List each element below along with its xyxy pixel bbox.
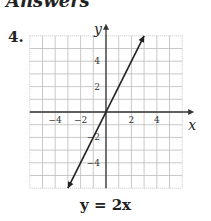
svg-text:y: y	[93, 21, 103, 37]
svg-text:−2: −2	[74, 115, 87, 125]
svg-text:2: 2	[129, 115, 135, 125]
svg-text:−4: −4	[87, 158, 101, 168]
svg-text:−4: −4	[49, 115, 63, 125]
svg-text:4: 4	[154, 115, 160, 125]
equation-label: y = 2x	[0, 196, 211, 214]
coordinate-graph: yx −4−224−4−224	[0, 0, 211, 221]
svg-text:2: 2	[94, 82, 100, 92]
svg-text:x: x	[188, 117, 196, 133]
svg-text:4: 4	[94, 56, 100, 66]
